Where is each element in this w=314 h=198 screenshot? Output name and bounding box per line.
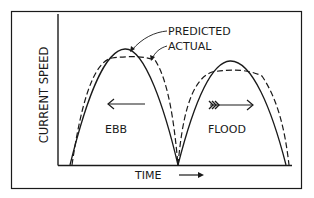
predicted-leader-line xyxy=(132,31,167,50)
x-axis-label: TIME xyxy=(134,169,161,182)
diagram-frame xyxy=(12,12,302,189)
predicted-flood-curve xyxy=(178,61,286,165)
predicted-ebb-curve xyxy=(70,49,178,165)
y-axis-label: CURRENT SPEED xyxy=(37,47,51,144)
ebb-arrow-icon xyxy=(108,99,145,109)
flood-label: FLOOD xyxy=(208,123,246,136)
actual-ebb-curve xyxy=(72,57,178,165)
flood-arrow-icon xyxy=(209,100,253,110)
legend-predicted-label: PREDICTED xyxy=(168,25,231,38)
time-arrow-icon xyxy=(179,172,204,178)
actual-leader-arrowhead xyxy=(150,55,155,61)
tidal-current-diagram: PREDICTED ACTUAL EBB FLOOD TIME CURRENT … xyxy=(0,0,314,198)
ebb-label: EBB xyxy=(105,123,127,136)
legend-actual-label: ACTUAL xyxy=(168,40,212,53)
